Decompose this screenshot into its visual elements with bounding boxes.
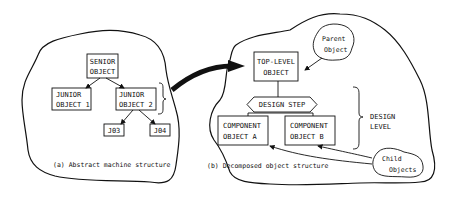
transition-arrowhead-icon — [228, 60, 245, 72]
transition-arrow — [172, 66, 232, 90]
diagram-canvas: SENIOR OBJECT JUNIOR OBJECT 1 JUNIOR OBJ… — [0, 0, 456, 204]
arrow-senior-junior1 — [86, 78, 100, 88]
senior-object-label-1: SENIOR — [90, 58, 116, 66]
j04-label: J04 — [154, 127, 167, 135]
child-objects-label-1: Child — [382, 155, 402, 163]
design-level-label-2: LEVEL — [370, 123, 391, 131]
top-level-object-label-1: TOP-LEVEL — [257, 58, 295, 66]
senior-object-label-2: OBJECT — [90, 68, 116, 76]
parent-object-label-1: Parent — [322, 35, 346, 43]
design-step-label: DESIGN STEP — [259, 101, 305, 109]
arrow-junior2-j04 — [139, 110, 155, 124]
component-object-b-label-1: COMPONENT — [290, 122, 329, 130]
component-object-a-label-2: OBJECT A — [223, 133, 258, 141]
arrow-junior2-j03 — [121, 110, 133, 124]
panel-b-caption: (b) Decomposed object structure — [207, 162, 328, 170]
child-objects-label-2: Objects — [389, 166, 416, 174]
junior-object-2-label-2: OBJECT 2 — [119, 101, 153, 109]
panel-a-caption: (a) Abstract machine structure — [53, 161, 170, 169]
top-level-object-label-2: OBJECT — [263, 69, 289, 77]
j03-label: J03 — [108, 127, 121, 135]
junior-object-2-label-1: JUNIOR — [119, 91, 145, 99]
component-object-b-label-2: OBJECT B — [290, 133, 324, 141]
arrow-senior-junior2 — [106, 78, 124, 88]
junior-2-brace — [158, 83, 166, 114]
parent-object-label-2: Object — [324, 46, 348, 54]
junior-object-1-label-1: JUNIOR — [56, 91, 82, 99]
component-object-a-label-1: COMPONENT — [223, 122, 262, 130]
junior-object-1-label-2: OBJECT 1 — [56, 101, 90, 109]
design-level-brace — [353, 87, 363, 149]
arrow-child-component-b — [318, 146, 372, 158]
design-level-label-1: DESIGN — [370, 113, 395, 121]
arrow-parent-toplevel — [305, 58, 322, 70]
